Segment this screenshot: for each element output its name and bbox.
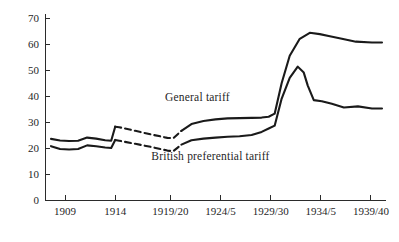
y-tick-label: 60 (28, 38, 40, 50)
y-tick-label: 10 (28, 168, 40, 180)
series-line-general-tariff (115, 127, 181, 138)
y-tick-label: 40 (28, 90, 40, 102)
x-tick-label: 1914 (104, 205, 127, 217)
y-tick-label: 20 (28, 142, 40, 154)
chart-axes (45, 14, 386, 200)
y-tick-label: 0 (34, 194, 40, 206)
chart-series-annotations: General tariffBritish preferential tarif… (151, 91, 269, 163)
series-line-general-tariff (181, 33, 382, 131)
chart-tick-marks (45, 18, 371, 200)
x-tick-label: 1934/5 (306, 205, 337, 217)
x-tick-label: 1909 (54, 205, 77, 217)
y-tick-label: 70 (28, 12, 40, 24)
series-line-general-tariff (51, 127, 115, 141)
x-tick-label: 1919/20 (152, 205, 189, 217)
x-tick-label: 1939/40 (353, 205, 390, 217)
y-tick-label: 30 (28, 116, 40, 128)
tariff-line-chart: 010203040506070 190919141919/201924/5192… (0, 0, 399, 242)
y-tick-label: 50 (28, 64, 40, 76)
y-axis-tick-labels: 010203040506070 (28, 12, 40, 206)
series-annotation-1: General tariff (165, 91, 230, 103)
series-annotation-2: British preferential tariff (151, 150, 269, 163)
x-tick-label: 1924/5 (205, 205, 236, 217)
x-tick-label: 1929/30 (253, 205, 290, 217)
x-axis-tick-labels: 190919141919/201924/51929/301934/51939/4… (54, 205, 389, 217)
chart-plot-area: 010203040506070 190919141919/201924/5192… (0, 0, 399, 242)
series-line-british-preferential-tariff (181, 67, 382, 145)
